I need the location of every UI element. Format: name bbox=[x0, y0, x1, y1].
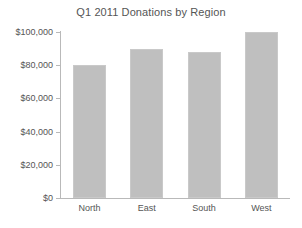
y-axis-tick bbox=[56, 198, 61, 199]
y-axis-tick-label: $20,000 bbox=[20, 160, 53, 170]
bar-south bbox=[188, 52, 221, 198]
x-axis-tick-label: West bbox=[231, 203, 291, 213]
bar-west bbox=[245, 32, 278, 198]
y-axis-tick-label: $0 bbox=[43, 193, 53, 203]
y-axis-tick-label: $100,000 bbox=[15, 27, 53, 37]
bar-east bbox=[130, 49, 163, 198]
y-axis-tick-label: $40,000 bbox=[20, 127, 53, 137]
x-axis-tick-label: East bbox=[117, 203, 177, 213]
y-axis-tick-label: $80,000 bbox=[20, 60, 53, 70]
bar-north bbox=[73, 65, 106, 198]
x-axis-tick-label: North bbox=[60, 203, 120, 213]
x-axis-tick-label: South bbox=[174, 203, 234, 213]
chart-title: Q1 2011 Donations by Region bbox=[0, 6, 302, 18]
x-axis-line bbox=[60, 198, 290, 199]
y-axis-tick-label: $60,000 bbox=[20, 93, 53, 103]
bar-chart-figure: Q1 2011 Donations by Region $0$20,000$40… bbox=[0, 0, 302, 228]
plot-area bbox=[61, 32, 290, 198]
